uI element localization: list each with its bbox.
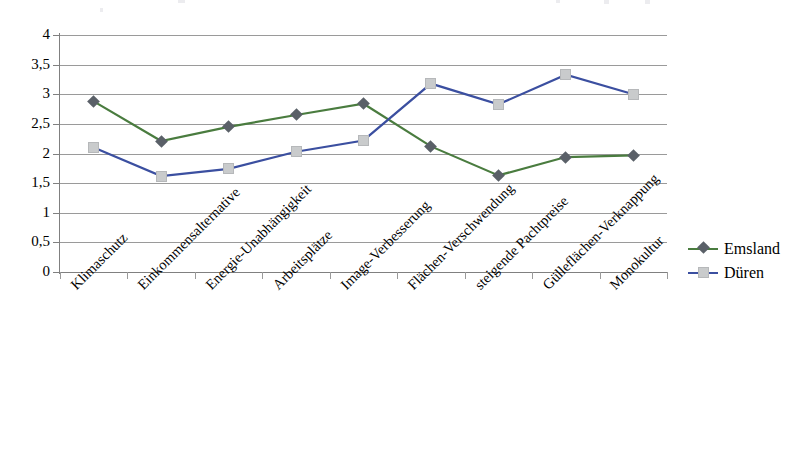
scan-artifact <box>604 0 609 4</box>
y-tick-label: 3,5 <box>0 57 50 72</box>
data-point-düren-2[interactable] <box>223 163 234 174</box>
y-tick-label: 2,5 <box>0 116 50 131</box>
y-tick-mark <box>53 242 60 243</box>
data-point-düren-6[interactable] <box>493 99 504 110</box>
gridline <box>60 65 667 66</box>
y-tick-label: 0,5 <box>0 234 50 249</box>
scan-artifact <box>556 0 560 3</box>
x-axis-labels: KlimaschutzEinkommensalternativeEnergie-… <box>0 272 798 472</box>
gridline <box>60 35 667 36</box>
scan-artifact <box>178 0 185 3</box>
gridline <box>60 213 667 214</box>
line-chart: 00,511,522,533,54 KlimaschutzEinkommensa… <box>0 0 798 472</box>
y-tick-mark <box>53 213 60 214</box>
y-tick-label: 1,5 <box>0 175 50 190</box>
gridline <box>60 183 667 184</box>
gridline <box>60 94 667 95</box>
plot-area <box>60 35 667 272</box>
data-point-düren-3[interactable] <box>291 146 302 157</box>
legend-item-dueren[interactable]: Düren <box>688 262 798 286</box>
y-tick-label: 3 <box>0 86 50 101</box>
square-marker-icon <box>698 267 709 278</box>
scan-artifact <box>100 8 103 12</box>
data-point-düren-0[interactable] <box>88 142 99 153</box>
y-tick-mark <box>53 94 60 95</box>
y-tick-mark <box>53 35 60 36</box>
gridline <box>60 124 667 125</box>
legend-item-emsland[interactable]: Emsland <box>688 238 798 262</box>
y-tick-mark <box>53 154 60 155</box>
y-tick-mark <box>53 183 60 184</box>
y-tick-label: 4 <box>0 27 50 42</box>
y-tick-mark <box>53 124 60 125</box>
data-point-düren-1[interactable] <box>156 171 167 182</box>
y-tick-mark <box>53 65 60 66</box>
gridline <box>60 154 667 155</box>
data-point-düren-5[interactable] <box>425 78 436 89</box>
data-point-düren-4[interactable] <box>358 135 369 146</box>
scan-artifact <box>645 0 650 4</box>
y-tick-label: 2 <box>0 146 50 161</box>
legend: Emsland Düren <box>688 238 798 286</box>
data-point-düren-8[interactable] <box>628 89 639 100</box>
y-tick-label: 1 <box>0 205 50 220</box>
diamond-marker-icon <box>697 241 710 254</box>
legend-label-dueren: Düren <box>724 263 764 282</box>
legend-label-emsland: Emsland <box>724 239 780 258</box>
data-point-düren-7[interactable] <box>560 69 571 80</box>
